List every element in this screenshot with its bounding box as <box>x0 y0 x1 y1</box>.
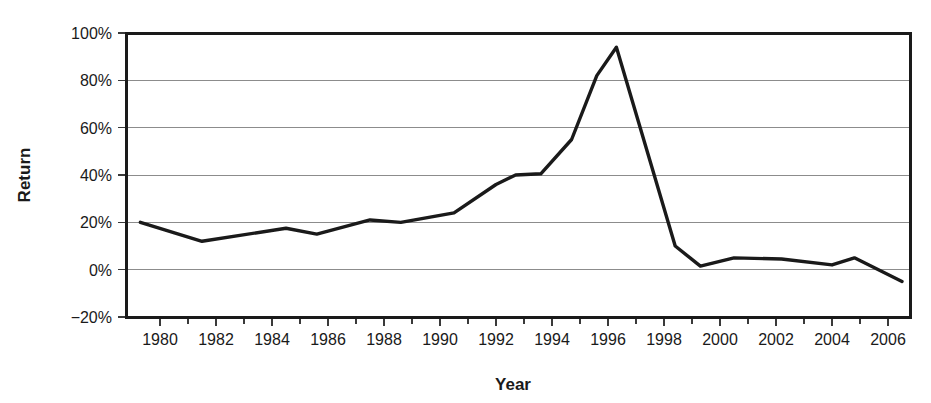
x-axis-title: Year <box>495 375 531 394</box>
y-axis-tick-label: 40% <box>80 167 112 184</box>
y-axis-tick-label: 80% <box>80 72 112 89</box>
x-axis-tick-label: 1980 <box>142 331 178 348</box>
y-axis-tick-label: 60% <box>80 120 112 137</box>
x-axis-tick-label: 1996 <box>590 331 626 348</box>
y-axis-tick-label: 100% <box>71 25 112 42</box>
y-axis-title: Return <box>15 148 34 203</box>
chart-container: 100%80%60%40%20%0%−20% 19801982198419861… <box>0 0 931 403</box>
x-axis-tick-label: 2006 <box>870 331 906 348</box>
y-axis-tick-label: 20% <box>80 214 112 231</box>
x-axis-tick-label: 1986 <box>310 331 346 348</box>
x-axis-tick-label: 2000 <box>702 331 738 348</box>
x-axis-tick-label: 1994 <box>534 331 570 348</box>
y-axis-tick-label: −20% <box>71 309 112 326</box>
x-axis-tick-label: 1990 <box>422 331 458 348</box>
x-axis-tick-label: 1984 <box>254 331 290 348</box>
x-axis-tick-label: 1992 <box>478 331 514 348</box>
x-axis-tick-label: 1998 <box>646 331 682 348</box>
x-axis-tick-label: 1982 <box>198 331 234 348</box>
x-axis-tick-label: 2002 <box>758 331 794 348</box>
return-vs-year-line-chart: 100%80%60%40%20%0%−20% 19801982198419861… <box>0 0 931 403</box>
y-axis-tick-label: 0% <box>89 262 112 279</box>
x-axis-tick-label: 2004 <box>814 331 850 348</box>
x-axis-tick-label: 1988 <box>366 331 402 348</box>
